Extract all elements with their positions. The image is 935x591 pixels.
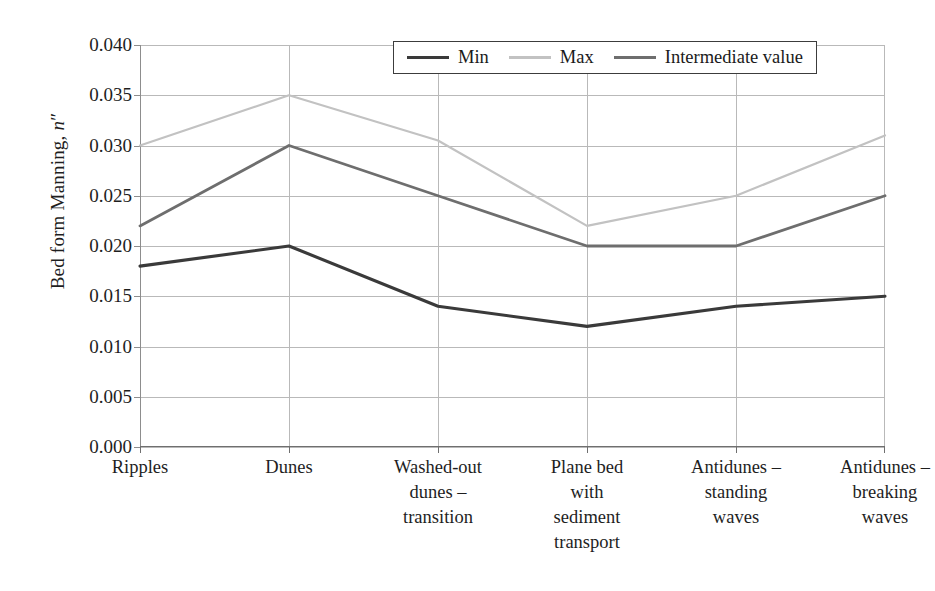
- x-axis-tick-labels: RipplesDunesWashed-outdunes –transitionP…: [140, 455, 885, 575]
- x-axis-tick-label-line: sediment: [515, 505, 658, 530]
- legend-entry[interactable]: Intermediate value: [614, 47, 803, 68]
- series-line-min: [140, 246, 885, 326]
- x-axis-tick-label: Antidunes –breakingwaves: [813, 455, 935, 530]
- legend-label: Intermediate value: [665, 47, 803, 68]
- x-axis-tick-label-line: with: [515, 480, 658, 505]
- legend-label: Max: [560, 47, 594, 68]
- x-axis-tick-label: Ripples: [68, 455, 211, 480]
- y-axis-tick-label: 0.010: [62, 336, 132, 358]
- x-axis-tick-label-line: transport: [515, 530, 658, 555]
- x-axis-tick-label-line: waves: [813, 505, 935, 530]
- x-axis-tick-label: Antidunes –standingwaves: [664, 455, 807, 530]
- x-axis-tick-label-line: Antidunes –: [664, 455, 807, 480]
- legend-entry[interactable]: Max: [509, 47, 594, 68]
- x-axis-tick-mark: [587, 447, 588, 453]
- y-axis-tick-labels: 0.0400.0350.0300.0250.0200.0150.0100.005…: [62, 45, 132, 447]
- y-axis-tick-label: 0.015: [62, 285, 132, 307]
- legend-line-swatch: [407, 56, 449, 59]
- legend-line-swatch: [509, 56, 551, 58]
- legend-label: Min: [458, 47, 489, 68]
- x-axis-tick-label-line: transition: [366, 505, 509, 530]
- x-axis-tick-mark: [140, 447, 141, 453]
- chart-legend: MinMaxIntermediate value: [393, 41, 817, 74]
- plot-area: [140, 45, 885, 447]
- series-lines: [140, 45, 885, 447]
- x-axis-tick-mark: [289, 447, 290, 453]
- x-axis-tick-mark: [438, 447, 439, 453]
- x-axis-tick-label-line: Washed-out: [366, 455, 509, 480]
- y-axis-tick-label: 0.020: [62, 235, 132, 257]
- x-axis-tick-label-line: Antidunes –: [813, 455, 935, 480]
- y-axis-tick-label: 0.040: [62, 34, 132, 56]
- x-axis-tick-mark: [884, 447, 885, 453]
- y-axis-tick-label: 0.035: [62, 84, 132, 106]
- x-axis-tick-label-line: Ripples: [68, 455, 211, 480]
- legend-line-swatch: [614, 56, 656, 59]
- x-axis-tick-label: Plane bedwithsedimenttransport: [515, 455, 658, 555]
- gridline-horizontal: [140, 447, 885, 448]
- x-axis-tick-label: Dunes: [217, 455, 360, 480]
- y-axis-tick-label: 0.005: [62, 386, 132, 408]
- series-line-intermediate-value: [140, 146, 885, 247]
- x-axis-tick-label-line: Plane bed: [515, 455, 658, 480]
- x-axis-tick-label-line: dunes –: [366, 480, 509, 505]
- x-axis-tick-mark: [736, 447, 737, 453]
- x-axis-tick-label-line: standing: [664, 480, 807, 505]
- y-axis-tick-label: 0.030: [62, 135, 132, 157]
- x-axis-tick-label-line: waves: [664, 505, 807, 530]
- x-axis-tick-label-line: breaking: [813, 480, 935, 505]
- y-axis-tick-label: 0.025: [62, 185, 132, 207]
- legend-entry[interactable]: Min: [407, 47, 489, 68]
- x-axis-tick-label-line: Dunes: [217, 455, 360, 480]
- x-axis-tick-label: Washed-outdunes –transition: [366, 455, 509, 530]
- series-line-max: [140, 95, 885, 226]
